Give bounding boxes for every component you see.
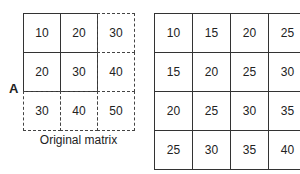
- matrix-cell: 20: [230, 13, 269, 53]
- matrix-cell: 20: [60, 13, 98, 53]
- matrix-cell: 30: [97, 13, 135, 53]
- matrix-cell: 20: [192, 52, 231, 92]
- matrix-cell: 20: [154, 91, 193, 131]
- matrix-cell: 30: [192, 130, 231, 170]
- matrix-cell: 15: [154, 52, 193, 92]
- matrix-cell: 25: [154, 130, 193, 170]
- matrix-cell: 10: [154, 13, 193, 53]
- matrix-cell: 25: [192, 91, 231, 131]
- matrix-label-a: A: [9, 81, 18, 96]
- matrix-cell: 35: [268, 91, 300, 131]
- matrix-cell: 40: [97, 52, 135, 92]
- matrix-cell: 25: [230, 52, 269, 92]
- matrix-cell: 30: [60, 52, 98, 92]
- matrix-cell: 30: [268, 52, 300, 92]
- matrix-cell: 50: [97, 91, 135, 131]
- original-matrix-caption: Original matrix: [23, 133, 134, 147]
- matrix-cell: 30: [230, 91, 269, 131]
- matrix-cell: 40: [268, 130, 300, 170]
- matrix-cell: 15: [192, 13, 231, 53]
- matrix-cell: 35: [230, 130, 269, 170]
- matrix-cell: 10: [23, 13, 61, 53]
- matrix-cell: 40: [60, 91, 98, 131]
- matrix-cell: 20: [23, 52, 61, 92]
- matrix-cell: 25: [268, 13, 300, 53]
- matrix-cell: 30: [23, 91, 61, 131]
